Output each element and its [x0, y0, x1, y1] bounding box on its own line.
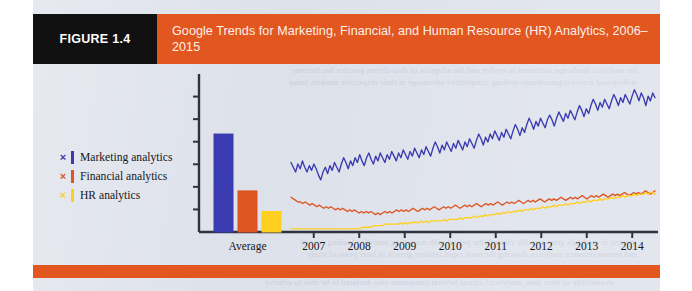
- x-tick-label: 2013: [575, 240, 598, 252]
- legend-x-marker-icon: ×: [57, 190, 69, 201]
- trend-line-group: [291, 90, 655, 229]
- legend-label-financial: Financial analytics: [80, 170, 167, 183]
- average-bar-group: [214, 134, 281, 232]
- figure-title-container: Google Trends for Marketing, Financial, …: [157, 14, 660, 64]
- legend-swatch-marketing: [71, 151, 74, 164]
- legend-item-financial-analytics: × Financial analytics: [57, 167, 172, 186]
- figure-number-label: FIGURE 1.4: [59, 32, 130, 46]
- figure-header-band: FIGURE 1.4 Google Trends for Marketing, …: [33, 14, 660, 64]
- x-tick-label: 2011: [484, 240, 507, 252]
- x-tick-label: 2010: [439, 240, 462, 252]
- x-tick-label: 2009: [393, 240, 416, 252]
- bar-marketing-analytics: [214, 134, 233, 232]
- legend-swatch-hr: [71, 189, 74, 202]
- x-tick-label: 2007: [302, 240, 325, 252]
- x-tick-label: 2014: [621, 240, 644, 252]
- legend-x-marker-icon: ×: [57, 152, 69, 163]
- legend-swatch-financial: [71, 170, 74, 183]
- legend-x-marker-icon: ×: [57, 171, 69, 182]
- legend-item-marketing-analytics: × Marketing analytics: [57, 148, 172, 167]
- x-tick-label: 2008: [348, 240, 371, 252]
- legend-label-marketing: Marketing analytics: [80, 151, 172, 164]
- figure-bottom-rule: [33, 265, 660, 278]
- chart-legend: × Marketing analytics × Financial analyt…: [57, 148, 172, 205]
- x-tick-label: Average: [228, 240, 266, 253]
- figure-number-block: FIGURE 1.4: [33, 14, 157, 64]
- legend-label-hr: HR analytics: [80, 189, 140, 202]
- legend-item-hr-analytics: × HR analytics: [57, 186, 172, 205]
- x-tick-label: 2012: [530, 240, 553, 252]
- x-axis-tick-labels: Average20072008200920102011201220132014: [228, 240, 644, 253]
- bar-financial-analytics: [238, 191, 257, 232]
- figure-title: Google Trends for Marketing, Financial, …: [172, 23, 650, 56]
- line-financial-analytics: [291, 191, 655, 215]
- line-marketing-analytics: [291, 90, 655, 180]
- bar-hr-analytics: [262, 211, 281, 232]
